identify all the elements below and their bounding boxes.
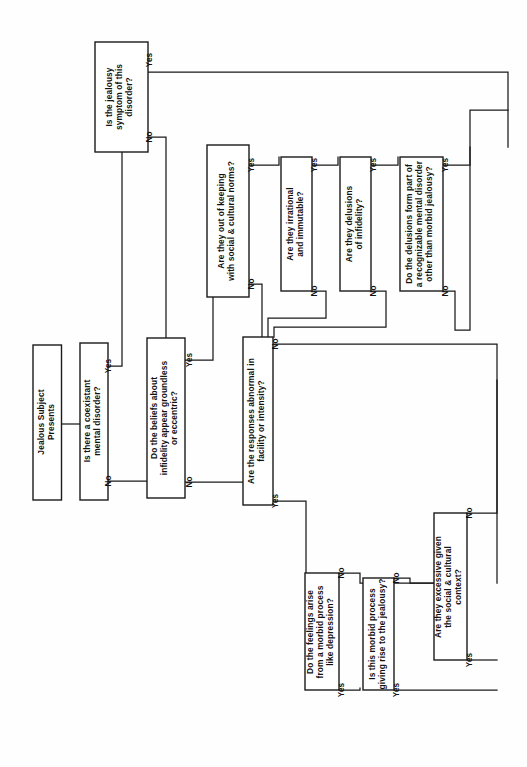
node-feelings-line-1: from a morbid process bbox=[315, 585, 325, 678]
label-feelings-yes: Yes bbox=[337, 682, 346, 697]
edge-recognizable-no bbox=[443, 147, 470, 330]
node-excessive-line-2: context? bbox=[453, 569, 463, 605]
node-excessive-line-0: Are they excessive given bbox=[433, 536, 443, 638]
label-delusions-yes: Yes bbox=[369, 157, 378, 172]
label-morbidprocess-no: No bbox=[392, 572, 401, 583]
node-morbidprocess-line-0: Is this morbid process bbox=[367, 588, 377, 680]
node-recognizable-line-0: Do the delusions form part of bbox=[404, 164, 414, 284]
edge-norms-no bbox=[249, 284, 262, 337]
flowchart-canvas: Jealous Subject Presents Is there a coex… bbox=[0, 0, 527, 767]
label-beliefs-yes: Yes bbox=[185, 352, 194, 367]
node-norms[interactable]: Are they out of keeping with social & cu… bbox=[207, 145, 256, 297]
node-excessive[interactable]: Are they excessive given the social & cu… bbox=[433, 507, 474, 667]
node-symptom[interactable]: Is the jealousy symptom of this disorder… bbox=[95, 42, 154, 152]
flowchart-page: Jealous Subject Presents Is there a coex… bbox=[0, 0, 527, 767]
edge-responses-yes bbox=[273, 501, 306, 589]
label-recognizable-no: No bbox=[441, 285, 450, 296]
label-recognizable-yes: Yes bbox=[441, 157, 450, 172]
node-delusions-line-0: Are they delusions bbox=[344, 185, 354, 262]
node-irrational-line-0: Are they irrational bbox=[285, 187, 295, 261]
label-norms-no: No bbox=[247, 278, 256, 289]
node-start[interactable]: Jealous Subject Presents bbox=[33, 345, 62, 500]
node-beliefs-line-1: infidelity appear groundless bbox=[159, 361, 169, 476]
edge-irrational-no bbox=[268, 291, 326, 337]
node-symptom-line-0: Is the jealousy bbox=[104, 67, 114, 126]
node-delusions-line-1: of infidelity? bbox=[354, 198, 364, 249]
label-morbidprocess-yes: Yes bbox=[392, 682, 401, 697]
node-responses[interactable]: Are the responses abnormal in facility o… bbox=[243, 337, 280, 508]
edge-delusions-no bbox=[274, 291, 386, 337]
label-symptom-no: No bbox=[145, 131, 154, 142]
node-symptom-line-2: disorder? bbox=[124, 77, 134, 117]
node-coexistant-line-1: mental disorder? bbox=[92, 386, 102, 456]
label-excessive-yes: Yes bbox=[465, 652, 474, 667]
node-morbidprocess[interactable]: Is this morbid process giving rise to th… bbox=[363, 572, 401, 697]
node-symptom-line-1: symptom of this bbox=[114, 64, 124, 130]
node-beliefs[interactable]: Do the beliefs about infidelity appear g… bbox=[147, 338, 194, 498]
label-delusions-no: No bbox=[369, 285, 378, 296]
node-beliefs-line-2: or eccentric? bbox=[169, 391, 179, 445]
edge-recognizable-yes bbox=[443, 110, 508, 165]
node-recognizable-line-1: a recognizable mental disorder bbox=[414, 160, 424, 287]
edge-coexistant-yes bbox=[108, 152, 122, 366]
node-coexistant-line-0: Is there a coexistant bbox=[82, 380, 92, 463]
label-beliefs-no: No bbox=[185, 476, 194, 487]
edge-excessive-no bbox=[467, 380, 497, 513]
label-feelings-no: No bbox=[337, 567, 346, 578]
label-norms-yes: Yes bbox=[247, 157, 256, 172]
node-irrational-line-1: and immutable? bbox=[295, 191, 305, 257]
node-morbidprocess-line-1: giving rise to the jealousy? bbox=[377, 579, 387, 690]
label-excessive-no: No bbox=[465, 507, 474, 518]
label-coexistant-yes: Yes bbox=[104, 358, 113, 373]
node-start-line-0: Jealous Subject bbox=[36, 389, 46, 454]
node-norms-line-0: Are they out of keeping bbox=[216, 173, 226, 268]
node-start-line-1: Presents bbox=[46, 404, 56, 440]
node-responses-line-1: facility or intensity? bbox=[256, 380, 266, 461]
node-norms-line-1: with social & cultural norms? bbox=[226, 161, 236, 282]
node-feelings-line-2: like depression? bbox=[325, 598, 335, 666]
node-beliefs-line-0: Do the beliefs about bbox=[149, 377, 159, 459]
edge-symptom-yes bbox=[148, 72, 508, 147]
edge-beliefs-yes bbox=[185, 297, 213, 360]
node-recognizable-line-2: other than morbid jealousy? bbox=[424, 166, 434, 281]
node-feelings[interactable]: Do the feelings arise from a morbid proc… bbox=[305, 567, 346, 697]
label-irrational-yes: Yes bbox=[310, 157, 319, 172]
node-delusions[interactable]: Are they delusions of infidelity? Yes No bbox=[340, 157, 378, 297]
node-feelings-line-0: Do the feelings arise bbox=[305, 590, 315, 674]
node-responses-line-0: Are the responses abnormal in bbox=[246, 358, 256, 484]
node-excessive-line-1: the social & cultural bbox=[443, 546, 453, 628]
label-symptom-yes: Yes bbox=[145, 52, 154, 67]
node-coexistant[interactable]: Is there a coexistant mental disorder? Y… bbox=[80, 343, 113, 500]
node-irrational[interactable]: Are they irrational and immutable? Yes N… bbox=[281, 157, 319, 297]
node-recognizable[interactable]: Do the delusions form part of a recogniz… bbox=[400, 157, 450, 297]
label-coexistant-no: No bbox=[104, 475, 113, 486]
label-irrational-no: No bbox=[310, 285, 319, 296]
label-responses-yes: Yes bbox=[271, 493, 280, 508]
label-responses-no: No bbox=[271, 338, 280, 349]
